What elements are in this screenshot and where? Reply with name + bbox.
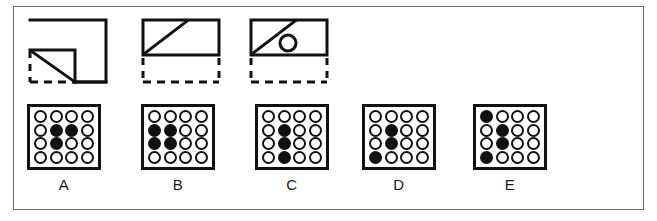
empty-dot-icon xyxy=(416,110,429,123)
empty-dot-icon xyxy=(369,137,382,150)
grid-cell xyxy=(80,137,96,151)
empty-dot-icon xyxy=(164,110,177,123)
empty-dot-icon xyxy=(527,110,540,123)
option-b-grid[interactable] xyxy=(141,104,215,170)
grid-cell xyxy=(147,110,163,124)
option-b-label: B xyxy=(136,175,220,195)
grid-cell xyxy=(292,137,308,151)
grid-cell xyxy=(194,124,210,138)
empty-dot-icon xyxy=(164,151,177,164)
grid-cell xyxy=(399,124,415,138)
grid-cell xyxy=(415,124,431,138)
answer-option-e[interactable]: E xyxy=(468,104,552,195)
grid-cell xyxy=(479,124,495,138)
grid-cell xyxy=(479,151,495,165)
grid-cell xyxy=(261,151,277,165)
answer-option-a[interactable]: A xyxy=(22,104,106,195)
screenshot-root: A B C D E xyxy=(0,0,657,221)
grid-cell xyxy=(308,124,324,138)
grid-cell xyxy=(33,137,49,151)
grid-cell xyxy=(384,110,400,124)
empty-dot-icon xyxy=(309,110,322,123)
empty-dot-icon xyxy=(309,137,322,150)
grid-cell xyxy=(292,110,308,124)
empty-dot-icon xyxy=(369,124,382,137)
answer-option-b[interactable]: B xyxy=(136,104,220,195)
empty-dot-icon xyxy=(81,124,94,137)
option-d-grid[interactable] xyxy=(362,104,436,170)
filled-dot-icon xyxy=(164,137,177,150)
grid-cell xyxy=(261,124,277,138)
grid-cell xyxy=(64,137,80,151)
option-c-label: C xyxy=(250,175,334,195)
grid-cell xyxy=(415,110,431,124)
grid-cell xyxy=(261,137,277,151)
grid-cell xyxy=(495,137,511,151)
empty-dot-icon xyxy=(278,110,291,123)
filled-dot-icon xyxy=(164,124,177,137)
grid-cell xyxy=(368,124,384,138)
prompt-figure-1 xyxy=(22,14,114,90)
grid-cell xyxy=(308,137,324,151)
grid-cell xyxy=(495,110,511,124)
grid-cell xyxy=(495,151,511,165)
empty-dot-icon xyxy=(50,110,63,123)
grid-cell xyxy=(64,124,80,138)
empty-dot-icon xyxy=(34,137,47,150)
empty-dot-icon xyxy=(400,124,413,137)
option-a-grid[interactable] xyxy=(27,104,101,170)
empty-dot-icon xyxy=(527,151,540,164)
grid-cell xyxy=(399,137,415,151)
empty-dot-icon xyxy=(65,151,78,164)
grid-cell xyxy=(526,110,542,124)
empty-dot-icon xyxy=(262,124,275,137)
filled-dot-icon xyxy=(480,110,493,123)
filled-dot-icon xyxy=(369,151,382,164)
option-e-grid[interactable] xyxy=(473,104,547,170)
grid-cell xyxy=(415,137,431,151)
filled-dot-icon xyxy=(278,124,291,137)
grid-cell xyxy=(399,110,415,124)
empty-dot-icon xyxy=(496,151,509,164)
empty-dot-icon xyxy=(416,124,429,137)
empty-dot-icon xyxy=(34,124,47,137)
grid-cell xyxy=(194,151,210,165)
grid-cell xyxy=(80,110,96,124)
grid-cell xyxy=(261,110,277,124)
empty-dot-icon xyxy=(511,151,524,164)
grid-cell xyxy=(178,110,194,124)
empty-dot-icon xyxy=(34,110,47,123)
empty-dot-icon xyxy=(385,110,398,123)
empty-dot-icon xyxy=(369,110,382,123)
answer-option-c[interactable]: C xyxy=(250,104,334,195)
filled-dot-icon xyxy=(385,124,398,137)
filled-dot-icon xyxy=(480,151,493,164)
empty-dot-icon xyxy=(81,151,94,164)
empty-dot-icon xyxy=(527,124,540,137)
grid-cell xyxy=(147,137,163,151)
figure-3-circle-icon xyxy=(280,35,296,51)
grid-cell xyxy=(194,137,210,151)
empty-dot-icon xyxy=(416,137,429,150)
option-d-label: D xyxy=(357,175,441,195)
grid-cell xyxy=(277,124,293,138)
grid-cell xyxy=(194,110,210,124)
prompt-figure-2 xyxy=(135,14,227,90)
prompt-figure-3 xyxy=(243,14,335,90)
option-c-grid[interactable] xyxy=(255,104,329,170)
empty-dot-icon xyxy=(148,151,161,164)
grid-cell xyxy=(495,124,511,138)
grid-cell xyxy=(49,110,65,124)
filled-dot-icon xyxy=(496,137,509,150)
grid-cell xyxy=(368,137,384,151)
filled-dot-icon xyxy=(50,124,63,137)
empty-dot-icon xyxy=(309,151,322,164)
grid-cell xyxy=(368,110,384,124)
grid-cell xyxy=(163,110,179,124)
prompt-figure-sequence xyxy=(0,0,657,96)
answer-option-d[interactable]: D xyxy=(357,104,441,195)
filled-dot-icon xyxy=(65,124,78,137)
empty-dot-icon xyxy=(148,110,161,123)
grid-cell xyxy=(479,137,495,151)
grid-cell xyxy=(49,137,65,151)
